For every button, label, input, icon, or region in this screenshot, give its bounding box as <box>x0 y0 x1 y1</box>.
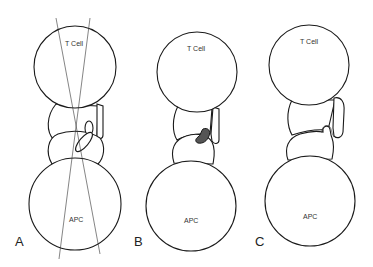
apc-b <box>146 161 236 251</box>
apc-label-a: APC <box>69 216 83 223</box>
diagram-canvas: T Cell APC A T Cell APC B T Cell APC <box>0 0 373 267</box>
panel-a: T Cell APC A <box>15 18 121 259</box>
figure-tcell-apc-synapse: T Cell APC A T Cell APC B T Cell APC <box>0 0 373 267</box>
t-cell-b <box>157 32 237 112</box>
apc-c <box>265 156 355 246</box>
apc-label-c: APC <box>303 213 317 220</box>
t-cell-a <box>34 26 116 108</box>
t-cell-tab <box>97 104 103 139</box>
panel-c: T Cell APC C <box>255 25 355 249</box>
panel-label-b: B <box>134 234 143 249</box>
apc-a <box>29 158 121 250</box>
apc-label-b: APC <box>184 217 198 224</box>
t-cell-label-a: T Cell <box>65 40 84 47</box>
panel-label-a: A <box>15 234 24 249</box>
t-cell-label-c: T Cell <box>300 38 319 45</box>
t-cell-label-b: T Cell <box>187 45 206 52</box>
panel-b: T Cell APC B <box>134 32 237 251</box>
t-cell-tab <box>211 107 219 144</box>
panel-label-c: C <box>255 234 264 249</box>
t-cell-tab <box>333 98 344 138</box>
t-cell-c <box>269 25 349 105</box>
